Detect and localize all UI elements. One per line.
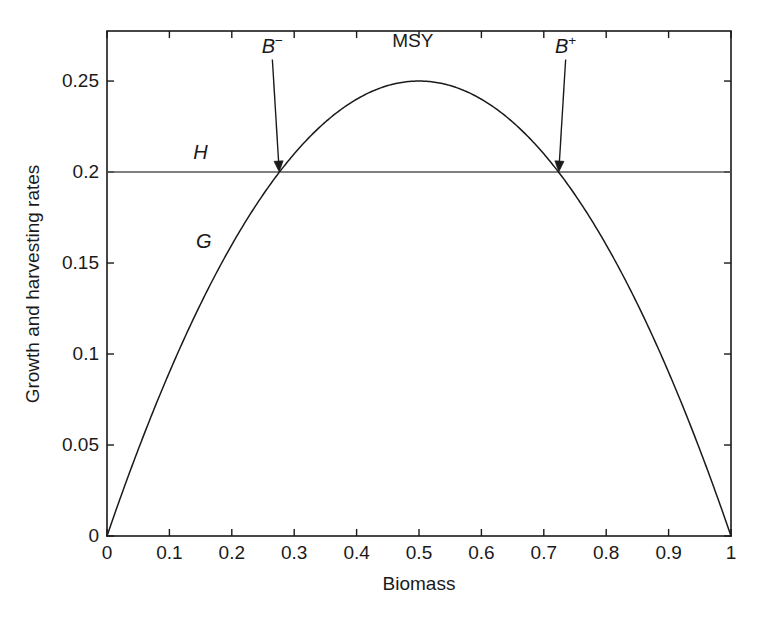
x-tick-label: 0.3 — [281, 542, 307, 564]
annotation-h-label: H — [193, 141, 207, 164]
axes-spines — [107, 31, 731, 536]
annotation-b-plus: B+ — [555, 34, 576, 57]
x-tick-label: 0 — [102, 542, 113, 564]
annotation-b-minus: B− — [262, 34, 283, 57]
chart-plot-area — [0, 0, 768, 619]
y-tick-label: 0 — [88, 525, 99, 547]
x-tick-label: 0.7 — [531, 542, 557, 564]
annotation-b-minus-superscript: − — [275, 32, 283, 47]
x-tick-label: 0.8 — [593, 542, 619, 564]
caption-partial — [0, 610, 768, 619]
annotation-msy: MSY — [392, 30, 433, 52]
x-tick-label: 0.2 — [219, 542, 245, 564]
x-tick-label: 0.1 — [156, 542, 182, 564]
x-tick-label: 0.4 — [343, 542, 369, 564]
y-axis-title: Growth and harvesting rates — [22, 164, 44, 403]
y-tick-label: 0.15 — [62, 252, 99, 274]
y-tick-label: 0.1 — [73, 343, 99, 365]
annotation-b-minus-base: B — [262, 34, 275, 56]
x-tick-label: 1 — [726, 542, 737, 564]
x-tick-label: 0.6 — [468, 542, 494, 564]
axis-ticks — [107, 31, 731, 536]
annotation-arrows — [272, 60, 565, 172]
annotation-b-plus-superscript: + — [568, 32, 576, 47]
y-tick-label: 0.25 — [62, 70, 99, 92]
annotation-b-plus-base: B — [555, 34, 568, 56]
y-tick-label: 0.05 — [62, 434, 99, 456]
y-tick-label: 0.2 — [73, 161, 99, 183]
x-tick-label: 0.5 — [406, 542, 432, 564]
annotation-g-label: G — [196, 230, 212, 253]
x-tick-label: 0.9 — [655, 542, 681, 564]
figure-container: 00.10.20.30.40.50.60.70.80.91 00.050.10.… — [0, 0, 768, 619]
x-axis-title: Biomass — [383, 573, 456, 595]
